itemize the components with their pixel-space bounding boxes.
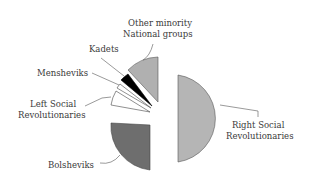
label-other-1: Other minority [128, 18, 192, 28]
label-kadets: Kadets [89, 44, 119, 54]
label-mensheviks: Mensheviks [37, 68, 88, 78]
label-other-2: National groups [123, 29, 193, 39]
pie-chart-svg: Right Social Revolutionaries Bolsheviks … [0, 0, 310, 183]
slice-right-sr [178, 75, 215, 162]
slice-bolsheviks [111, 123, 150, 170]
label-left-sr-2: Revolutionaries [18, 110, 86, 120]
label-left-sr-1: Left Social [30, 99, 76, 109]
label-right-sr-1: Right Social [232, 120, 285, 130]
label-bolsheviks: Bolsheviks [48, 160, 94, 170]
label-right-sr-2: Revolutionaries [226, 131, 294, 141]
pie-chart: Right Social Revolutionaries Bolsheviks … [0, 0, 310, 183]
